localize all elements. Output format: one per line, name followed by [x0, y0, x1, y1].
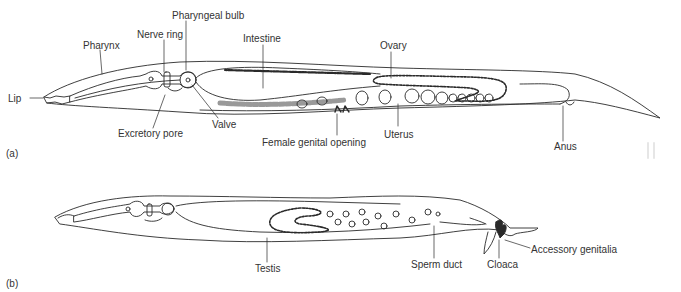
label-lip: Lip	[8, 93, 21, 104]
label-testis: Testis	[255, 263, 281, 274]
label-ovary: Ovary	[380, 40, 407, 51]
ovary-shape	[373, 76, 506, 102]
sperm-cells	[327, 209, 440, 229]
nerve-ring-shape	[164, 72, 170, 87]
label-intestine: Intestine	[243, 33, 281, 44]
label-valve: Valve	[212, 119, 236, 130]
pharyngeal-bulb-shape	[180, 72, 196, 88]
label-pharyngeal-bulb: Pharyngeal bulb	[172, 10, 244, 21]
male-worm-drawing	[55, 196, 538, 254]
label-female-genital-opening: Female genital opening	[262, 137, 366, 148]
pharynx-shape	[70, 71, 196, 102]
panel-tag-a: (a)	[6, 148, 18, 159]
testis-shape	[270, 208, 329, 233]
watermark-mark	[648, 143, 654, 158]
label-nerve-ring: Nerve ring	[137, 29, 183, 40]
nematode-anatomy-figure: Lip Pharynx Nerve ring Pharyngeal bulb I…	[0, 0, 681, 292]
label-excretory-pore: Excretory pore	[118, 128, 183, 139]
leader-lines-b	[267, 226, 530, 262]
panel-tag-b: (b)	[6, 278, 18, 289]
label-uterus: Uterus	[384, 129, 413, 140]
female-worm-drawing	[44, 61, 660, 118]
label-cloaca: Cloaca	[487, 259, 518, 270]
label-sperm-duct: Sperm duct	[411, 259, 462, 270]
leader-lines-a	[30, 21, 563, 141]
label-anus: Anus	[554, 141, 577, 152]
label-accessory-genitalia: Accessory genitalia	[531, 244, 617, 255]
label-pharynx: Pharynx	[83, 40, 120, 51]
